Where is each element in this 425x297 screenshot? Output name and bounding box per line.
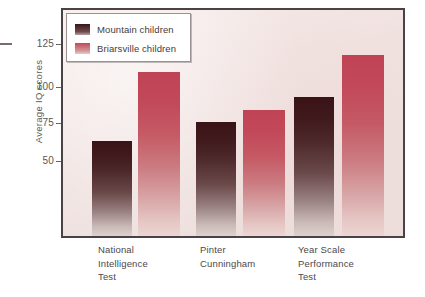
legend-item-briarsville: Briarsville children	[75, 39, 190, 58]
y-tick-label-75: 75	[8, 117, 54, 128]
bar-briarsville-yearscale	[342, 55, 384, 236]
legend: Mountain children Briarsville children	[66, 13, 191, 62]
bar-briarsville-national	[138, 72, 180, 236]
y-tick-label-50: 50	[8, 155, 54, 166]
bar-mountain-pinter	[196, 122, 236, 236]
y-axis-title: Average IQ scores	[33, 42, 44, 162]
x-category-label-pinter: Pinter Cunningham	[200, 243, 255, 270]
y-tick-label-125: 125	[8, 38, 54, 49]
briarsville-swatch-icon	[75, 43, 90, 54]
mountain-swatch-icon	[75, 24, 90, 35]
legend-item-mountain: Mountain children	[75, 20, 190, 39]
chart-figure: Average IQ scores 125 100 75 50 Mountain…	[0, 0, 425, 297]
y-tick-label-100: 100	[8, 81, 54, 92]
bar-mountain-national	[92, 141, 132, 236]
bar-briarsville-pinter	[243, 110, 285, 236]
x-category-label-yearscale: Year Scale Performance Test	[298, 243, 354, 284]
legend-label-briarsville: Briarsville children	[97, 43, 176, 54]
bar-mountain-yearscale	[294, 97, 334, 236]
x-category-label-national: National Intelligence Test	[98, 243, 148, 284]
legend-label-mountain: Mountain children	[97, 24, 174, 35]
